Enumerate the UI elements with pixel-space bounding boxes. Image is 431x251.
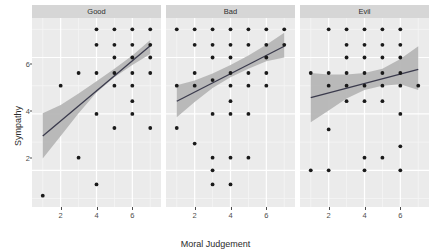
- x-tick-label: 6: [398, 211, 402, 220]
- data-point: [148, 56, 152, 60]
- x-tick-label: 2: [193, 211, 197, 220]
- x-axis: 246: [166, 207, 295, 221]
- data-point: [77, 71, 81, 75]
- data-point: [398, 56, 402, 60]
- data-point: [113, 71, 117, 75]
- data-point: [130, 99, 134, 103]
- x-tick-label: 4: [94, 211, 98, 220]
- data-point: [247, 112, 251, 116]
- data-point: [381, 99, 385, 103]
- data-point: [247, 71, 251, 75]
- data-point: [130, 112, 134, 116]
- data-point: [229, 27, 233, 31]
- data-point: [363, 27, 367, 31]
- x-tick-mark: [132, 207, 133, 210]
- data-point: [229, 43, 233, 47]
- data-point: [416, 84, 420, 88]
- x-axis-title: Moral Judgement: [0, 239, 431, 249]
- data-point: [229, 56, 233, 60]
- data-point: [211, 27, 215, 31]
- facet-panel: Good 246: [32, 5, 161, 221]
- data-point: [327, 168, 331, 172]
- x-tick-mark: [231, 207, 232, 210]
- data-point: [247, 27, 251, 31]
- data-point: [327, 27, 331, 31]
- data-point: [148, 71, 152, 75]
- data-point: [247, 43, 251, 47]
- data-point: [398, 84, 402, 88]
- data-point: [381, 156, 385, 160]
- x-tick-label: 2: [59, 211, 63, 220]
- data-point: [193, 43, 197, 47]
- data-point: [398, 27, 402, 31]
- data-point: [113, 84, 117, 88]
- data-point: [345, 43, 349, 47]
- data-point: [211, 156, 215, 160]
- data-point: [193, 27, 197, 31]
- data-point: [264, 56, 268, 60]
- data-point: [247, 156, 251, 160]
- data-point: [264, 84, 268, 88]
- data-point: [229, 99, 233, 103]
- x-tick-label: 2: [327, 211, 331, 220]
- data-point: [229, 112, 233, 116]
- data-point: [211, 183, 215, 187]
- data-point: [381, 84, 385, 88]
- y-axis-title: Sympathy: [13, 105, 23, 145]
- data-point: [363, 99, 367, 103]
- data-point: [59, 84, 63, 88]
- facet-strip-label: Good: [87, 8, 105, 16]
- data-point: [148, 126, 152, 130]
- data-point: [193, 142, 197, 146]
- facet-strip-label: Evil: [358, 8, 370, 16]
- data-point: [327, 128, 331, 132]
- data-point: [175, 27, 179, 31]
- data-point: [309, 71, 313, 75]
- data-point: [363, 56, 367, 60]
- data-point: [247, 84, 251, 88]
- plot-svg: [166, 18, 295, 207]
- plot-region: [32, 18, 161, 207]
- x-tick-label: 4: [362, 211, 366, 220]
- facet-panels: Good 246 Bad 246 Evil 246: [32, 5, 429, 221]
- data-point: [381, 71, 385, 75]
- data-point: [113, 43, 117, 47]
- data-point: [148, 43, 152, 47]
- data-point: [345, 71, 349, 75]
- data-point: [95, 27, 99, 31]
- data-point: [363, 71, 367, 75]
- data-point: [363, 43, 367, 47]
- data-point: [398, 112, 402, 116]
- data-point: [229, 156, 233, 160]
- x-axis: 246: [300, 207, 429, 221]
- data-point: [130, 27, 134, 31]
- x-tick-mark: [195, 207, 196, 210]
- data-point: [193, 84, 197, 88]
- data-point: [381, 56, 385, 60]
- x-tick-mark: [365, 207, 366, 210]
- data-point: [77, 156, 81, 160]
- data-point: [345, 27, 349, 31]
- data-point: [41, 194, 45, 198]
- x-tick-label: 6: [264, 211, 268, 220]
- data-point: [327, 71, 331, 75]
- x-tick-label: 4: [228, 211, 232, 220]
- data-point: [229, 71, 233, 75]
- plot-region: [166, 18, 295, 207]
- data-point: [211, 56, 215, 60]
- data-point: [95, 183, 99, 187]
- data-point: [229, 84, 233, 88]
- facet-panel: Bad 246: [166, 5, 295, 221]
- x-tick-mark: [329, 207, 330, 210]
- data-point: [327, 84, 331, 88]
- facet-strip: Good: [32, 5, 161, 18]
- data-point: [175, 84, 179, 88]
- data-point: [398, 71, 402, 75]
- data-point: [130, 71, 134, 75]
- data-point: [113, 27, 117, 31]
- facet-strip: Evil: [300, 5, 429, 18]
- data-point: [264, 27, 268, 31]
- data-point: [264, 71, 268, 75]
- data-point: [363, 168, 367, 172]
- facet-strip-label: Bad: [224, 8, 237, 16]
